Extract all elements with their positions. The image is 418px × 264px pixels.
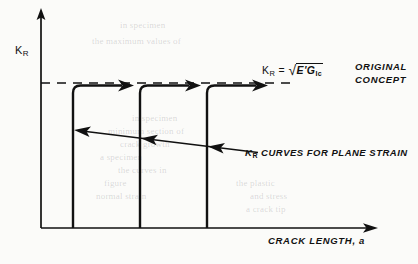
kr-curves-annotation-label: KR CURVES FOR PLANE STRAIN [245,147,408,161]
original-concept-label: ORIGINAL CONCEPT [355,61,407,87]
x-axis-label-main: CRACK LENGTH, [268,235,359,246]
original-concept-line1: ORIGINAL [355,61,407,74]
kr-step-curve-2 [140,80,201,228]
y-axis-label-subscript: R [23,49,29,58]
kr-curve-figure: in specimenthe maximum values ofin speci… [0,0,418,264]
x-axis-label-variable: a [359,235,365,246]
x-axis-label: CRACK LENGTH, a [268,235,365,247]
y-axis [37,8,46,228]
equation-equals: = [279,64,286,76]
plateau-equation-label: KR = √E'GIc [262,62,323,80]
kr-curves-label-rest: CURVES FOR PLANE STRAIN [258,147,408,158]
equation-lhs-subscript: R [269,69,275,78]
y-axis-label-main: K [15,44,23,56]
kr-step-curve-1 [73,80,134,228]
y-axis-label: KR [15,44,29,59]
equation-radicand-text: E'G [297,64,316,76]
x-axis [41,223,378,233]
figure-canvas [0,0,418,264]
equation-radicand: E'GIc [296,63,324,79]
original-concept-line2: CONCEPT [355,74,407,87]
kr-curves-leader-line [74,127,258,154]
equation-radicand-subscript: Ic [315,70,322,77]
